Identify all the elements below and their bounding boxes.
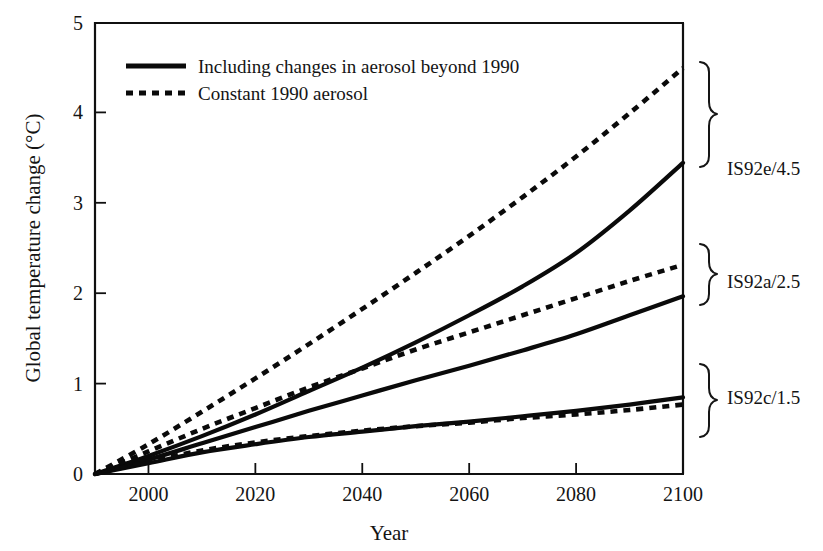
y-tick-label-3: 3 [73, 192, 83, 214]
figure-container: 0 1 2 3 4 5 200020202040206020802100 Inc… [0, 0, 823, 551]
scenario-label-mid: IS92a/2.5 [727, 271, 800, 292]
series-5-dashed [95, 405, 683, 474]
scenario-label-low: IS92c/1.5 [727, 387, 800, 408]
x-tick-label-2000: 2000 [128, 483, 168, 505]
chart-legend: Including changes in aerosol beyond 1990… [126, 56, 519, 104]
y-axis-title: Global temperature change (°C) [21, 113, 45, 382]
y-tick-label-2: 2 [73, 282, 83, 304]
y-axis-tick-labels: 0 1 2 3 4 5 [73, 12, 83, 485]
y-tick-label-4: 4 [73, 101, 83, 123]
x-axis-title: Year [370, 521, 409, 545]
y-tick-label-1: 1 [73, 373, 83, 395]
data-curves [95, 68, 683, 474]
x-axis-ticks [148, 463, 683, 474]
x-tick-label-2080: 2080 [556, 483, 596, 505]
x-tick-label-2040: 2040 [342, 483, 382, 505]
y-tick-label-5: 5 [73, 12, 83, 34]
y-axis-ticks [95, 23, 106, 474]
x-tick-label-2020: 2020 [235, 483, 275, 505]
brace-mid-icon [700, 244, 717, 305]
series-3-solid [95, 296, 683, 474]
scenario-annotations: IS92e/4.5 IS92a/2.5 IS92c/1.5 [700, 62, 800, 437]
brace-high-icon [700, 62, 717, 167]
y-tick-label-0: 0 [73, 463, 83, 485]
temperature-projection-chart: 0 1 2 3 4 5 200020202040206020802100 Inc… [0, 0, 823, 551]
scenario-label-high: IS92e/4.5 [727, 158, 800, 179]
x-tick-label-2100: 2100 [663, 483, 703, 505]
legend-solid-label: Including changes in aerosol beyond 1990 [198, 56, 519, 77]
x-axis-tick-labels: 200020202040206020802100 [128, 483, 703, 505]
brace-low-icon [700, 364, 717, 437]
legend-dashed-label: Constant 1990 aerosol [198, 83, 368, 104]
series-0-dashed [95, 68, 683, 474]
x-tick-label-2060: 2060 [449, 483, 489, 505]
